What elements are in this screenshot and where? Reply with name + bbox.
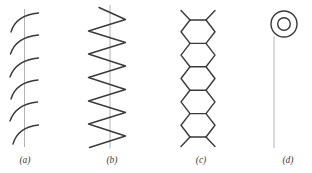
figure-canvas: [0, 0, 312, 173]
top-left-bond-stub: [181, 11, 190, 21]
panel-label-c: (c): [196, 154, 207, 166]
coil-arc-5: [10, 102, 38, 121]
bottom-left-bond-stub: [181, 137, 190, 147]
panel-label-a: (a): [19, 154, 30, 166]
inner-circle: [278, 18, 291, 31]
panel-label-d: (d): [282, 154, 293, 166]
panel-label-b: (b): [106, 154, 117, 166]
hexagon-chain-left-side: [181, 20, 190, 137]
hexagon-chain-right-side: [206, 20, 215, 137]
figure: (a) (b) (c) (d): [0, 0, 312, 173]
zigzag-chain: [89, 8, 126, 148]
outer-circle: [271, 11, 297, 37]
bottom-right-bond-stub: [206, 137, 215, 147]
top-right-bond-stub: [206, 11, 215, 21]
coil-arc-6: [13, 125, 39, 144]
